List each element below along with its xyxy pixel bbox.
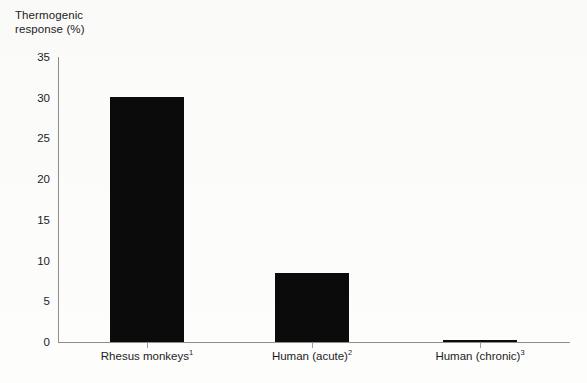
category-label: Rhesus monkeys1 — [101, 350, 193, 362]
x-tick — [480, 343, 481, 348]
category-label: Human (acute)2 — [272, 350, 352, 362]
y-tick-label: 20 — [24, 173, 50, 185]
category-footnote-marker: 3 — [520, 348, 524, 357]
bar — [443, 340, 517, 342]
bar-chart-figure: Thermogenic response (%) 05101520253035 … — [0, 0, 587, 383]
y-tick-label: 10 — [24, 255, 50, 267]
bar — [275, 273, 349, 342]
category-footnote-marker: 2 — [348, 348, 352, 357]
bars-group — [58, 57, 570, 342]
y-tick-label: 0 — [24, 336, 50, 348]
bar — [110, 97, 184, 342]
y-tick-label: 15 — [24, 214, 50, 226]
category-label: Human (chronic)3 — [435, 350, 524, 362]
y-tick-label: 30 — [24, 92, 50, 104]
x-tick — [147, 343, 148, 348]
x-axis-line — [58, 342, 570, 343]
category-footnote-marker: 1 — [189, 348, 193, 357]
x-tick — [312, 343, 313, 348]
y-tick-label: 5 — [24, 295, 50, 307]
y-tick-label: 25 — [24, 132, 50, 144]
y-axis-tick-labels: 05101520253035 — [24, 0, 52, 383]
y-tick-label: 35 — [24, 51, 50, 63]
